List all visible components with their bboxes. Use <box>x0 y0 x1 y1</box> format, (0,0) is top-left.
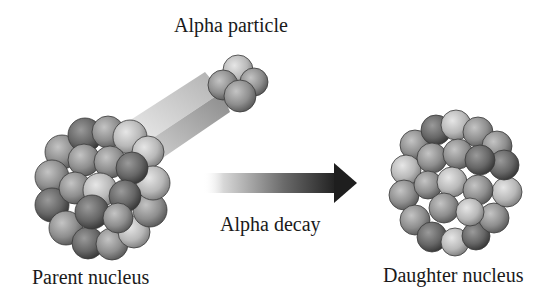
parent-nucleus-label: Parent nucleus <box>32 267 149 287</box>
alpha-particle-label: Alpha particle <box>174 15 288 35</box>
alpha-decay-label: Alpha decay <box>220 214 321 234</box>
daughter-nucleus-icon <box>389 110 522 256</box>
parent-nucleus-icon <box>35 116 170 260</box>
alpha-decay-arrow-icon <box>203 163 357 203</box>
daughter-nucleus-label: Daughter nucleus <box>383 265 524 285</box>
alpha-decay-diagram <box>0 0 557 292</box>
